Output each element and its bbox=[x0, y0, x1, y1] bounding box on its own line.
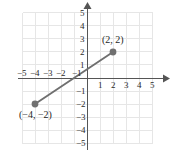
x-tick-label-neg5: −5 bbox=[17, 69, 27, 78]
y-tick-label-pos1: 1 bbox=[80, 61, 85, 70]
x-tick-label-pos1: 1 bbox=[98, 81, 103, 90]
y-tick-label-pos5: 5 bbox=[80, 9, 85, 18]
point-label-lower-left: (−4, −2) bbox=[19, 110, 52, 120]
x-axis-arrow-icon bbox=[163, 75, 170, 83]
y-tick-label-neg3: −3 bbox=[76, 113, 86, 122]
point-marker-upper-right bbox=[110, 49, 117, 56]
x-tick-label-pos3: 3 bbox=[124, 81, 129, 90]
x-tick-label-pos2: 2 bbox=[111, 81, 116, 90]
x-tick-label-neg2: −2 bbox=[56, 69, 66, 78]
y-tick-label-neg5: −5 bbox=[76, 139, 86, 148]
x-tick-label-neg1: −1 bbox=[72, 69, 82, 78]
coordinate-plane-figure: −5 −4 −3 −2 −1 1 2 3 4 5 5 4 3 2 1 −1 −2… bbox=[0, 0, 171, 155]
y-tick-label-pos4: 4 bbox=[80, 22, 85, 31]
x-tick-label-pos5: 5 bbox=[150, 81, 155, 90]
x-tick-label-neg3: −3 bbox=[43, 69, 53, 78]
y-tick-label-pos3: 3 bbox=[80, 35, 85, 44]
y-tick-label-neg2: −2 bbox=[76, 100, 86, 109]
x-axis bbox=[18, 75, 170, 83]
point-marker-lower-left bbox=[32, 101, 39, 108]
x-tick-label-pos4: 4 bbox=[137, 81, 142, 90]
y-tick-label-neg4: −4 bbox=[76, 126, 86, 135]
y-tick-label-neg1: −1 bbox=[76, 87, 86, 96]
point-label-upper-right: (2, 2) bbox=[102, 35, 124, 45]
x-tick-label-neg4: −4 bbox=[30, 69, 40, 78]
y-tick-label-pos2: 2 bbox=[80, 48, 85, 57]
